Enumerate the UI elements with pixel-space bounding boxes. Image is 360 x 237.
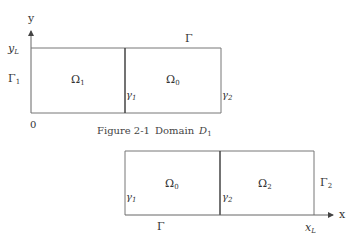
gamma-2-interface: γ2 <box>222 191 233 204</box>
omega-0-region: Ω0 <box>165 177 179 191</box>
gamma-1-interface: γ1 <box>126 191 136 204</box>
y-axis-label: y <box>27 12 35 25</box>
omega-2-region: Ω2 <box>258 177 272 191</box>
x-L-label: xL <box>305 221 316 235</box>
gamma-1-boundary: Γ1 <box>8 72 20 86</box>
omega-1-region: Ω1 <box>71 73 85 87</box>
omega-0-region: Ω0 <box>166 73 180 87</box>
origin-label: 0 <box>30 119 36 130</box>
gamma-1-interface: γ1 <box>126 89 136 102</box>
top-domain: y yL Γ Γ1 Ω1 Ω0 γ1 γ2 0 <box>7 12 233 130</box>
bottom-domain: x Ω0 Ω2 γ1 γ2 Γ2 Γ xL <box>125 151 346 235</box>
gamma-2-interface: γ2 <box>222 89 233 102</box>
y-L-label: yL <box>7 42 19 56</box>
gamma-boundary-top: Γ <box>185 32 193 45</box>
domain-diagram: y yL Γ Γ1 Ω1 Ω0 γ1 γ2 0 Figure 2-1Domain… <box>0 0 360 237</box>
figure-caption: Figure 2-1DomainD1 <box>97 125 212 138</box>
x-axis-label: x <box>339 208 346 221</box>
gamma-2-boundary: Γ2 <box>320 176 332 190</box>
gamma-boundary-bottom: Γ <box>157 220 165 233</box>
